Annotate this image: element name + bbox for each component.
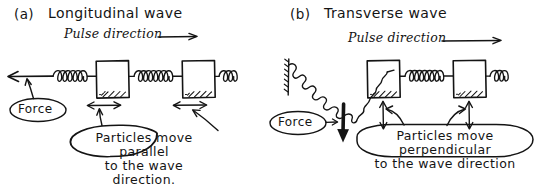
block-1-b bbox=[367, 60, 400, 98]
pulse-direction-arrow-b bbox=[442, 37, 501, 43]
panel-a-callout-line-1: Particles move parallel bbox=[95, 130, 192, 159]
particle-motion-arrow-2-a bbox=[173, 102, 206, 109]
block-2-b bbox=[453, 60, 486, 98]
particle-motion-arrow-1-a bbox=[87, 102, 120, 109]
panel-a-pulse-direction-label: Pulse direction bbox=[64, 27, 162, 41]
spring-3-b bbox=[486, 71, 508, 82]
panel-b-callout-text: Particles move perpendicular to the wave… bbox=[364, 129, 526, 171]
spring-3-a bbox=[215, 71, 237, 82]
force-arrow-b bbox=[337, 104, 349, 143]
panel-b-pulse-direction-label: Pulse direction bbox=[348, 31, 446, 45]
spring-2-a bbox=[129, 71, 182, 82]
spring-1-b-displaced bbox=[289, 64, 394, 123]
force-arrow-a bbox=[8, 72, 53, 82]
anchor-spring-b bbox=[284, 59, 289, 95]
panel-b-callout-line-2: to the wave direction bbox=[364, 157, 526, 171]
wave-diagram-figure: (a) Longitudinal wave Pulse direction Fo… bbox=[0, 0, 539, 188]
block-2-a bbox=[182, 61, 215, 99]
block-1-a bbox=[96, 61, 129, 99]
panel-b-label: (b) bbox=[290, 7, 310, 22]
panel-a-force-label: Force bbox=[18, 103, 52, 116]
panel-a-label: (a) bbox=[14, 7, 34, 22]
spring-1-a bbox=[53, 71, 96, 82]
panel-a-callout-line-2: to the wave direction. bbox=[76, 159, 212, 187]
panel-a-callout-text: Particles move parallel to the wave dire… bbox=[76, 131, 212, 187]
panel-a-title: Longitudinal wave bbox=[48, 6, 182, 22]
panel-b-callout-line-1: Particles move perpendicular bbox=[396, 128, 493, 157]
pulse-direction-arrow-a bbox=[158, 33, 197, 39]
panel-b-force-label: Force bbox=[278, 116, 312, 129]
spring-2-b bbox=[400, 70, 453, 81]
panel-b-title: Transverse wave bbox=[324, 6, 447, 22]
